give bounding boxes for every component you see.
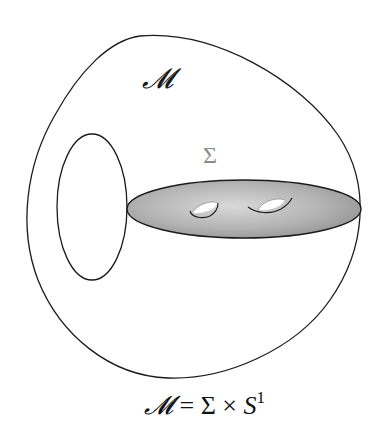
manifold-label: 𝓜 <box>142 62 173 96</box>
circle-fiber <box>57 134 127 280</box>
caption-manifold: 𝓜 <box>144 390 173 420</box>
caption-equals: = <box>173 391 201 420</box>
manifold-diagram: 𝓜 Σ 𝓜 = Σ × S1 <box>0 0 378 445</box>
surface-disc <box>127 180 361 238</box>
caption-circle: S <box>243 391 256 420</box>
surface-label: Σ <box>203 142 217 169</box>
diagram-canvas <box>0 0 378 445</box>
caption-times: × <box>216 391 244 420</box>
caption-sigma: Σ <box>201 391 216 420</box>
caption-exponent: 1 <box>256 388 265 407</box>
caption-equation: 𝓜 = Σ × S1 <box>144 390 265 421</box>
